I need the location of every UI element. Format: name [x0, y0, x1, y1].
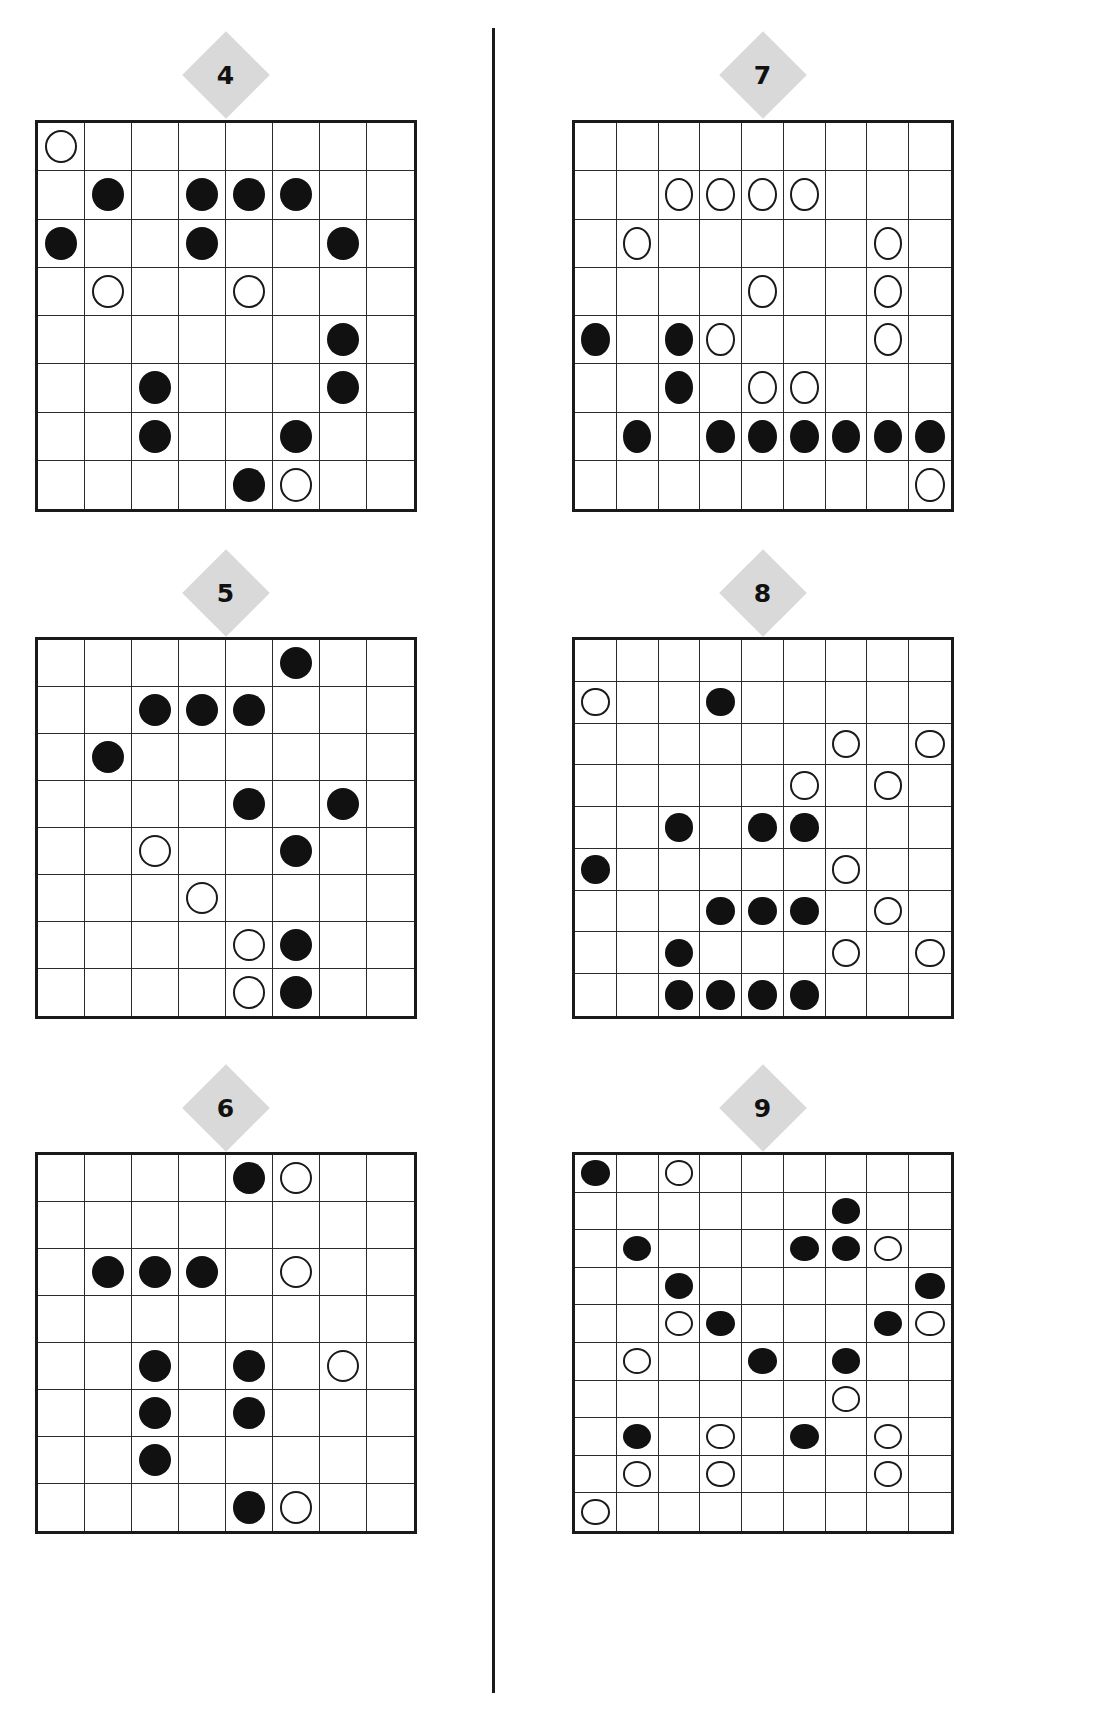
grid-cell[interactable] — [367, 413, 414, 461]
grid-cell[interactable] — [38, 316, 85, 364]
grid-cell[interactable] — [617, 268, 659, 316]
black-stone-icon[interactable] — [45, 227, 77, 260]
grid-cell[interactable] — [867, 1230, 909, 1268]
grid-cell[interactable] — [38, 1484, 85, 1531]
grid-cell[interactable] — [742, 1155, 784, 1193]
grid-cell[interactable] — [273, 316, 320, 364]
grid-cell[interactable] — [132, 1202, 179, 1249]
white-stone-icon[interactable] — [623, 227, 652, 260]
grid-cell[interactable] — [867, 765, 909, 807]
white-stone-icon[interactable] — [706, 323, 735, 356]
grid-cell[interactable] — [909, 1268, 951, 1306]
grid-cell[interactable] — [575, 123, 617, 171]
grid-cell[interactable] — [867, 1343, 909, 1381]
grid-cell[interactable] — [742, 1268, 784, 1306]
grid-cell[interactable] — [909, 413, 951, 461]
grid-cell[interactable] — [867, 974, 909, 1016]
grid-cell[interactable] — [659, 1493, 701, 1531]
grid-cell[interactable] — [226, 640, 273, 687]
grid-cell[interactable] — [179, 875, 226, 922]
grid-cell[interactable] — [826, 974, 868, 1016]
grid-cell[interactable] — [179, 781, 226, 828]
grid-cell[interactable] — [575, 364, 617, 412]
grid-cell[interactable] — [617, 1155, 659, 1193]
grid-cell[interactable] — [132, 123, 179, 171]
grid-cell[interactable] — [320, 1437, 367, 1484]
white-stone-icon[interactable] — [233, 275, 265, 308]
grid-cell[interactable] — [909, 171, 951, 219]
grid-cell[interactable] — [320, 781, 367, 828]
grid-cell[interactable] — [38, 1437, 85, 1484]
black-stone-icon[interactable] — [748, 1348, 777, 1374]
black-stone-icon[interactable] — [665, 813, 694, 842]
grid-cell[interactable] — [575, 171, 617, 219]
grid-cell[interactable] — [320, 969, 367, 1016]
grid-cell[interactable] — [867, 1155, 909, 1193]
grid-cell[interactable] — [320, 640, 367, 687]
grid-cell[interactable] — [132, 1249, 179, 1296]
grid-cell[interactable] — [784, 268, 826, 316]
grid-cell[interactable] — [179, 316, 226, 364]
grid-cell[interactable] — [659, 268, 701, 316]
white-stone-icon[interactable] — [233, 976, 265, 1009]
grid-cell[interactable] — [909, 1193, 951, 1231]
black-stone-icon[interactable] — [706, 420, 735, 453]
grid-cell[interactable] — [367, 734, 414, 781]
grid-cell[interactable] — [38, 171, 85, 219]
grid-cell[interactable] — [273, 171, 320, 219]
grid-cell[interactable] — [179, 1390, 226, 1437]
black-stone-icon[interactable] — [748, 897, 777, 926]
grid-cell[interactable] — [700, 1155, 742, 1193]
grid-cell[interactable] — [659, 1155, 701, 1193]
grid-cell[interactable] — [226, 123, 273, 171]
black-stone-icon[interactable] — [665, 323, 694, 356]
grid-cell[interactable] — [85, 413, 132, 461]
black-stone-icon[interactable] — [139, 420, 171, 453]
grid-cell[interactable] — [659, 932, 701, 974]
black-stone-icon[interactable] — [92, 178, 124, 211]
grid-cell[interactable] — [179, 364, 226, 412]
grid-cell[interactable] — [132, 1155, 179, 1202]
black-stone-icon[interactable] — [665, 1273, 694, 1299]
grid-cell[interactable] — [742, 1193, 784, 1231]
grid-cell[interactable] — [575, 765, 617, 807]
grid-cell[interactable] — [273, 1343, 320, 1390]
white-stone-icon[interactable] — [581, 688, 610, 717]
grid-cell[interactable] — [909, 123, 951, 171]
grid-cell[interactable] — [742, 1343, 784, 1381]
grid-cell[interactable] — [179, 922, 226, 969]
grid-cell[interactable] — [273, 922, 320, 969]
grid-cell[interactable] — [38, 220, 85, 268]
grid-cell[interactable] — [320, 268, 367, 316]
grid-cell[interactable] — [617, 461, 659, 509]
grid-cell[interactable] — [85, 268, 132, 316]
white-stone-icon[interactable] — [832, 730, 861, 759]
grid-cell[interactable] — [909, 1305, 951, 1343]
grid-cell[interactable] — [742, 316, 784, 364]
grid-cell[interactable] — [700, 891, 742, 933]
grid-cell[interactable] — [826, 849, 868, 891]
grid-cell[interactable] — [273, 1155, 320, 1202]
grid-cell[interactable] — [320, 364, 367, 412]
grid-cell[interactable] — [826, 1456, 868, 1494]
black-stone-icon[interactable] — [186, 227, 218, 260]
grid-cell[interactable] — [179, 1155, 226, 1202]
grid-cell[interactable] — [784, 1193, 826, 1231]
grid-cell[interactable] — [909, 849, 951, 891]
white-stone-icon[interactable] — [665, 1311, 694, 1337]
grid-cell[interactable] — [659, 765, 701, 807]
grid-cell[interactable] — [273, 969, 320, 1016]
grid-cell[interactable] — [38, 1202, 85, 1249]
black-stone-icon[interactable] — [139, 1256, 171, 1288]
grid-cell[interactable] — [700, 1381, 742, 1419]
white-stone-icon[interactable] — [874, 323, 903, 356]
grid-cell[interactable] — [320, 1296, 367, 1343]
grid-cell[interactable] — [867, 807, 909, 849]
grid-cell[interactable] — [867, 1493, 909, 1531]
grid-cell[interactable] — [85, 123, 132, 171]
grid-cell[interactable] — [784, 807, 826, 849]
grid-cell[interactable] — [826, 1418, 868, 1456]
grid-cell[interactable] — [867, 724, 909, 766]
grid-cell[interactable] — [742, 1456, 784, 1494]
black-stone-icon[interactable] — [92, 1256, 124, 1288]
